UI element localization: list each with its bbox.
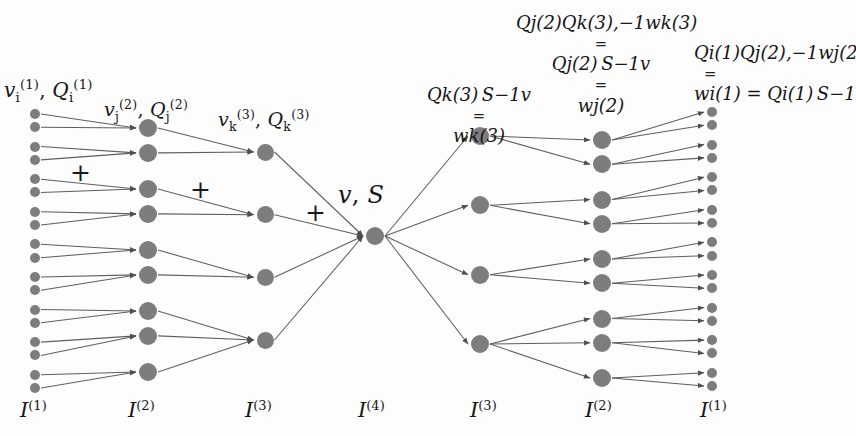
layer-label-I2-left: I(2) bbox=[128, 398, 155, 422]
layer-label-I1-right: I(1) bbox=[700, 398, 727, 422]
node-I2-right-3 bbox=[593, 215, 611, 233]
edge bbox=[612, 373, 704, 378]
node-I2-left-4 bbox=[139, 241, 157, 259]
label-v-S: v, S bbox=[338, 182, 384, 209]
node-I3-left-2 bbox=[257, 269, 274, 286]
node-I1-right-12 bbox=[707, 303, 717, 313]
node-I2-left-8 bbox=[139, 363, 157, 381]
edge bbox=[41, 250, 136, 258]
node-I1-right-6 bbox=[707, 205, 717, 215]
edge bbox=[158, 340, 254, 372]
node-I1-left-0 bbox=[30, 109, 40, 119]
layer-label-I3-right: I(3) bbox=[470, 398, 497, 422]
label-w1-stack: Qi(1)Qj(2),−1wj(2) = wi(1) = Qi(1) S−1v bbox=[694, 42, 854, 106]
edge bbox=[612, 210, 704, 224]
node-I2-left-2 bbox=[139, 180, 157, 198]
edge bbox=[385, 236, 468, 344]
node-I1-left-6 bbox=[30, 207, 40, 217]
layer-label-I4-mid: I(4) bbox=[358, 398, 385, 422]
node-I2-right-4 bbox=[593, 250, 611, 268]
edge bbox=[612, 283, 704, 288]
layer-label-I3-left: I(3) bbox=[245, 398, 272, 422]
node-I2-left-5 bbox=[139, 266, 157, 284]
label-w2-stack: Qj(2)Qk(3),−1wk(3) = Qj(2) S−1v = wj(2) bbox=[516, 12, 686, 117]
edge bbox=[490, 343, 590, 344]
edge bbox=[41, 244, 136, 250]
edge bbox=[275, 236, 364, 340]
edge bbox=[41, 311, 136, 323]
node-I2-left-3 bbox=[139, 205, 157, 223]
edge bbox=[41, 275, 136, 290]
edge bbox=[612, 378, 704, 386]
node-I2-left-1 bbox=[139, 144, 157, 162]
node-I1-left-2 bbox=[30, 142, 40, 152]
label-v3-Q3: vk(3), Qk(3) bbox=[218, 108, 310, 134]
node-I1-right-7 bbox=[707, 218, 717, 228]
edge bbox=[41, 310, 136, 311]
edge bbox=[612, 190, 704, 199]
node-I2-right-2 bbox=[593, 191, 611, 209]
diagram-canvas: vi(1), Qi(1) vj(2), Qj(2) vk(3), Qk(3) v… bbox=[0, 0, 856, 436]
label-v1-Q1: vi(1), Qi(1) bbox=[4, 78, 93, 105]
edge bbox=[158, 336, 254, 340]
node-I1-right-17 bbox=[707, 381, 717, 391]
node-I1-right-3 bbox=[707, 153, 717, 163]
node-I1-left-13 bbox=[30, 318, 40, 328]
edge bbox=[490, 259, 590, 275]
node-I1-left-17 bbox=[30, 383, 40, 393]
edge bbox=[612, 308, 704, 319]
edge bbox=[490, 205, 590, 223]
edge bbox=[490, 200, 590, 206]
edge bbox=[158, 275, 254, 277]
edge bbox=[41, 212, 136, 214]
edge bbox=[41, 275, 136, 277]
edge bbox=[612, 275, 704, 283]
edge bbox=[41, 189, 136, 192]
edge bbox=[612, 340, 704, 343]
edge bbox=[490, 344, 590, 378]
plus-sign-2: + bbox=[190, 177, 211, 202]
node-I3-left-0 bbox=[257, 144, 274, 161]
node-I3-left-1 bbox=[257, 206, 274, 223]
node-I2-left-7 bbox=[139, 327, 157, 345]
node-I3-left-3 bbox=[257, 332, 274, 349]
edge bbox=[612, 343, 704, 354]
node-I1-right-10 bbox=[707, 270, 717, 280]
edge bbox=[490, 275, 590, 284]
node-I2-right-7 bbox=[593, 334, 611, 352]
node-I4-mid-0 bbox=[366, 227, 384, 245]
edge bbox=[158, 214, 254, 215]
layer-label-I2-right: I(2) bbox=[585, 398, 612, 422]
node-I3-right-3 bbox=[471, 335, 489, 353]
node-I1-right-13 bbox=[707, 316, 717, 326]
node-I2-right-0 bbox=[593, 131, 611, 149]
edge bbox=[41, 214, 136, 225]
node-I1-right-16 bbox=[707, 368, 717, 378]
layer-label-I1-left: I(1) bbox=[20, 398, 47, 422]
node-I1-left-3 bbox=[30, 155, 40, 165]
node-I1-left-10 bbox=[30, 272, 40, 282]
edge bbox=[612, 177, 704, 199]
label-v2-Q2: vj(2), Qj(2) bbox=[104, 98, 188, 124]
edge bbox=[612, 125, 704, 140]
edge bbox=[158, 250, 254, 277]
node-I2-left-6 bbox=[139, 302, 157, 320]
node-I1-left-16 bbox=[30, 370, 40, 380]
node-I1-right-0 bbox=[707, 107, 717, 117]
node-I2-right-8 bbox=[593, 369, 611, 387]
edge bbox=[490, 319, 590, 345]
node-I3-right-2 bbox=[471, 266, 489, 284]
edge bbox=[158, 311, 254, 340]
node-I2-right-6 bbox=[593, 310, 611, 328]
node-I1-left-7 bbox=[30, 220, 40, 230]
edge bbox=[275, 236, 364, 277]
edge bbox=[385, 236, 468, 275]
plus-sign-3: + bbox=[305, 200, 326, 225]
edge bbox=[41, 147, 136, 153]
edge bbox=[41, 127, 136, 128]
edge bbox=[158, 152, 254, 153]
node-I1-right-2 bbox=[707, 140, 717, 150]
edge bbox=[612, 223, 704, 224]
node-I1-right-9 bbox=[707, 251, 717, 261]
node-I1-left-12 bbox=[30, 305, 40, 315]
